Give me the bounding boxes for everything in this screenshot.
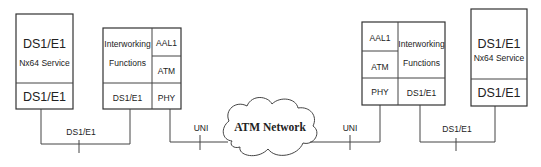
right-iwf-aal: AAL1 [370, 33, 391, 43]
atm-interworking-diagram: DS1/E1 Nx64 Service DS1/E1 Interworking … [0, 0, 541, 167]
left-ds-label: DS1/E1 [66, 127, 96, 137]
left-iwf-aal: AAL1 [156, 38, 177, 48]
left-iwf-atm: ATM [158, 66, 175, 76]
right-uni-label: UNI [343, 123, 358, 133]
right-ds-label: DS1/E1 [442, 124, 472, 134]
atm-network-cloud: ATM Network [223, 98, 317, 156]
right-iwf-atm: ATM [371, 62, 388, 72]
left-device: DS1/E1 Nx64 Service DS1/E1 [16, 14, 73, 109]
right-iwf-line2: Functions [403, 58, 440, 68]
right-iwf: AAL1 ATM Interworking Functions PHY DS1/… [362, 22, 445, 105]
right-device: DS1/E1 Nx64 Service DS1/E1 [471, 9, 527, 106]
left-iwf-line2: Functions [109, 58, 146, 68]
left-uni-label: UNI [194, 123, 209, 133]
right-device-title: DS1/E1 [477, 37, 520, 51]
left-iwf: Interworking Functions AAL1 ATM DS1/E1 P… [103, 28, 181, 109]
left-device-title: DS1/E1 [23, 37, 66, 51]
left-iwf-ds: DS1/E1 [113, 93, 143, 103]
atm-network-label: ATM Network [234, 121, 306, 133]
right-iwf-ds: DS1/E1 [407, 88, 437, 98]
left-device-bottom: DS1/E1 [23, 90, 66, 104]
right-iwf-phy: PHY [371, 87, 389, 97]
left-iwf-line1: Interworking [104, 39, 151, 49]
left-iwf-phy: PHY [158, 93, 176, 103]
left-device-subtitle: Nx64 Service [19, 58, 70, 68]
right-device-bottom: DS1/E1 [477, 86, 520, 100]
right-iwf-line1: Interworking [398, 39, 445, 49]
right-device-subtitle: Nx64 Service [474, 53, 525, 63]
